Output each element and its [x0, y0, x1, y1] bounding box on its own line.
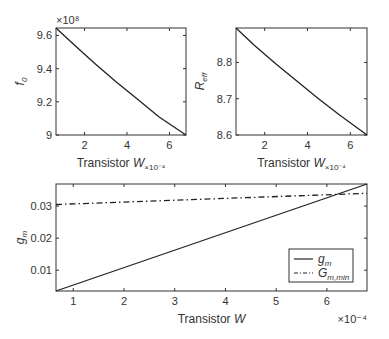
y-tick-label: 0.01: [31, 264, 52, 276]
x-tick-label: 2: [262, 139, 268, 151]
y-tick-label: 9: [46, 129, 52, 141]
y-tick-label: 9.2: [37, 96, 52, 108]
x-tick-label: 1: [70, 295, 76, 307]
series-line: [56, 28, 186, 135]
x-tick-label: 3: [172, 295, 178, 307]
x-tick-label: 2: [121, 295, 127, 307]
y-tick-label: 8.8: [217, 56, 232, 68]
x-tick-label: 4: [124, 139, 130, 151]
x-tick-label: 5: [273, 295, 279, 307]
legend: gmGm,min: [289, 249, 353, 282]
y-multiplier: ×10⁸: [56, 14, 79, 26]
y-tick-label: 0.02: [31, 232, 52, 244]
figure: 24699.29.49.6f0×10⁸Transistor W×10⁻⁴2468…: [0, 0, 389, 339]
x-tick-label: 2: [81, 139, 87, 151]
axes-frame: [236, 28, 367, 135]
x-axis-label: Transistor W×10⁻⁴: [77, 156, 166, 172]
series-line: [236, 28, 367, 135]
x-tick-label: 6: [347, 139, 353, 151]
y-tick-label: 9.6: [37, 29, 52, 41]
svg-text:Reff: Reff: [193, 72, 209, 90]
y-tick-label: 8.6: [217, 129, 232, 141]
y-tick-label: 0.03: [31, 200, 52, 212]
x-axis-label: Transistor W×10⁻⁴: [257, 156, 346, 172]
chart-f0-vs-w: 24699.29.49.6f0×10⁸Transistor W×10⁻⁴: [13, 14, 186, 172]
svg-text:gm: gm: [13, 230, 29, 244]
x-tick-label: 4: [222, 295, 228, 307]
svg-text:f0: f0: [13, 77, 29, 85]
axes-frame: [56, 28, 186, 135]
x-tick-label: 4: [304, 139, 310, 151]
chart-reff-vs-w: 2468.68.78.8ReffTransistor W×10⁻⁴: [193, 28, 367, 172]
x-tick-label: 6: [166, 139, 172, 151]
series-line: [56, 193, 367, 204]
x-axis-label: Transistor W: [178, 312, 247, 326]
chart-gm-vs-w: 1234560.010.020.03gmTransistor W×10⁻⁴gmG…: [13, 184, 367, 326]
y-tick-label: 8.7: [217, 93, 232, 105]
x-multiplier: ×10⁻⁴: [338, 313, 368, 325]
y-tick-label: 9.4: [37, 63, 52, 75]
x-tick-label: 6: [324, 295, 330, 307]
